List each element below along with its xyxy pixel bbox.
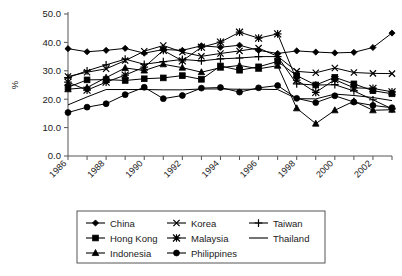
legend-item-label: Philippines (191, 248, 237, 259)
marker-asterisk (388, 88, 396, 96)
marker-diamond (294, 48, 300, 54)
x-tick-label-group: 1998 (276, 158, 297, 179)
marker-triangle (293, 105, 300, 111)
marker-plus (293, 80, 301, 88)
marker-circle (237, 89, 243, 95)
x-tick-label-group: 1990 (123, 158, 144, 179)
x-tick-label-group: 1992 (162, 158, 183, 179)
marker-circle (198, 85, 204, 91)
x-tick-label: 1996 (238, 158, 259, 179)
series-hong-kong (65, 59, 395, 97)
marker-plus (83, 67, 91, 75)
marker-plus (255, 53, 263, 61)
series-korea (65, 42, 395, 79)
marker-plus (178, 56, 186, 64)
x-tick-label-group: 1988 (85, 158, 106, 179)
marker-circle (122, 92, 128, 98)
marker-asterisk (312, 89, 320, 97)
marker-triangle (313, 120, 320, 126)
x-tick-label-group: 2000 (314, 158, 335, 179)
series-line (68, 64, 392, 123)
chart-figure: 0.010.020.030.040.050.0 1986198819901992… (0, 0, 402, 276)
marker-x (332, 65, 338, 71)
marker-triangle (332, 107, 339, 113)
x-tick-label: 1992 (162, 158, 183, 179)
marker-asterisk (159, 47, 167, 55)
series-taiwan (64, 53, 396, 113)
x-axis-tick-labels: 198619881990199219941996199820002002 (47, 158, 373, 179)
marker-diamond (236, 42, 242, 48)
legend-item-label: Taiwan (273, 218, 303, 229)
legend-item-label: China (110, 218, 136, 229)
legend-item-label: Indonesia (110, 248, 152, 259)
marker-asterisk (274, 30, 282, 38)
line-chart: 0.010.020.030.040.050.0 1986198819901992… (0, 0, 402, 276)
marker-diamond (313, 49, 319, 55)
x-tick-label-group: 1994 (200, 158, 221, 179)
marker-circle (65, 110, 71, 116)
marker-circle (84, 104, 90, 110)
legend-item-label: Thailand (273, 233, 309, 244)
marker-plus (236, 54, 244, 62)
marker-square (84, 77, 90, 83)
x-tick-label: 1998 (276, 158, 297, 179)
y-tick-label: 30.0 (43, 65, 62, 76)
x-tick-label: 2002 (352, 158, 373, 179)
marker-asterisk (217, 38, 225, 46)
marker-square (199, 76, 205, 82)
marker-asterisk (121, 71, 129, 79)
chart-series-group (64, 28, 396, 126)
marker-diamond (103, 47, 109, 53)
legend-item-label: Malaysia (191, 233, 229, 244)
x-tick-label: 1986 (47, 158, 68, 179)
series-line (68, 89, 392, 105)
marker-diamond (65, 46, 71, 52)
marker-diamond (332, 50, 338, 56)
marker-plus (64, 74, 72, 82)
y-axis-title-text: % (9, 80, 20, 89)
y-axis-tick-labels: 0.010.020.030.040.050.0 (43, 8, 62, 161)
marker-triangle (122, 64, 129, 70)
x-tick-label: 2000 (314, 158, 335, 179)
chart-legend: ChinaHong KongIndonesiaKoreaMalaysiaPhil… (77, 211, 325, 263)
series-philippines (65, 83, 395, 116)
series-thailand (68, 89, 392, 105)
marker-asterisk (255, 34, 263, 42)
marker-circle (313, 100, 319, 106)
chart-axes (64, 12, 392, 160)
x-tick-label-group: 1996 (238, 158, 259, 179)
marker-circle (218, 85, 224, 91)
marker-circle (275, 83, 281, 89)
series-line (68, 32, 392, 92)
marker-circle (351, 99, 357, 105)
x-tick-label: 1994 (200, 158, 221, 179)
x-tick-label-group: 2002 (352, 158, 373, 179)
marker-square (180, 73, 186, 79)
y-tick-label: 10.0 (43, 122, 62, 133)
x-tick-label-group: 1986 (47, 158, 68, 179)
marker-asterisk (102, 78, 110, 86)
marker-circle (103, 101, 109, 107)
marker-diamond (122, 45, 128, 51)
marker-circle (179, 93, 185, 99)
x-tick-label: 1990 (123, 158, 144, 179)
marker-circle (160, 96, 166, 102)
y-axis-title-group: % (9, 80, 20, 89)
marker-plus (198, 57, 206, 65)
marker-triangle (236, 62, 243, 68)
marker-asterisk (83, 86, 91, 94)
marker-diamond (84, 49, 90, 55)
y-tick-label: 50.0 (43, 8, 62, 19)
legend-item-label: Hong Kong (110, 233, 158, 244)
legend-item-label: Korea (191, 218, 217, 229)
marker-square (141, 76, 147, 82)
marker-asterisk (173, 234, 181, 242)
marker-square (93, 235, 99, 241)
marker-circle (174, 250, 180, 256)
y-tick-label: 20.0 (43, 94, 62, 105)
marker-square (160, 75, 166, 81)
x-tick-label: 1988 (85, 158, 106, 179)
marker-diamond (351, 49, 357, 55)
series-line (68, 33, 392, 53)
marker-asterisk (236, 28, 244, 36)
